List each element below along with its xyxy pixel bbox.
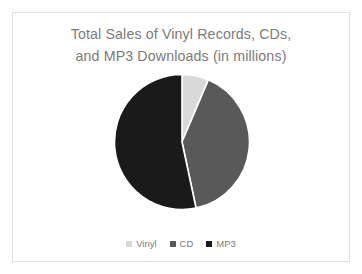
chart-title: Total Sales of Vinyl Records, CDs, and M… — [13, 23, 349, 67]
legend-item-mp3[interactable]: MP3 — [206, 239, 236, 249]
legend-swatch-icon — [126, 241, 132, 247]
legend-swatch-icon — [170, 241, 176, 247]
chart-title-line-2: and MP3 Downloads (in millions) — [27, 45, 335, 67]
pie-chart — [114, 74, 250, 210]
legend-label: Vinyl — [136, 239, 156, 249]
legend-item-vinyl[interactable]: Vinyl — [126, 239, 156, 249]
legend-swatch-icon — [206, 241, 212, 247]
chart-title-line-1: Total Sales of Vinyl Records, CDs, — [27, 23, 335, 45]
legend-item-cd[interactable]: CD — [170, 239, 194, 249]
slide-frame: Total Sales of Vinyl Records, CDs, and M… — [12, 12, 350, 262]
pie-chart-svg — [114, 74, 250, 210]
legend-label: CD — [180, 239, 194, 249]
legend-label: MP3 — [216, 239, 236, 249]
chart-legend: VinylCDMP3 — [13, 239, 349, 249]
pie-slice-group — [115, 75, 250, 210]
